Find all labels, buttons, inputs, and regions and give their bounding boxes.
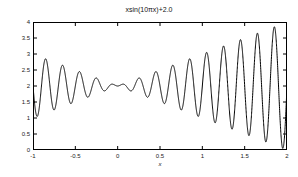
y-tick-label: 1 — [6, 115, 30, 122]
x-tick-label: 2 — [285, 153, 288, 160]
plot-area: 00.511.522.533.54 -1-0.500.511.52 — [33, 22, 287, 150]
y-tick-label: 0.5 — [6, 131, 30, 138]
y-tick-label: 2.5 — [6, 67, 30, 74]
figure-canvas: xsin(10πx)+2.0 00.511.522.533.54 -1-0.50… — [0, 0, 298, 177]
x-tick-label: 0.5 — [156, 153, 164, 160]
axes-and-curve — [33, 22, 287, 150]
y-tick-label: 3 — [6, 51, 30, 58]
x-tick-label: -1 — [30, 153, 35, 160]
x-tick-label: 1 — [201, 153, 204, 160]
x-tick-label: 1.5 — [240, 153, 248, 160]
y-tick-label: 3.5 — [6, 35, 30, 42]
y-tick-label: 4 — [6, 19, 30, 26]
y-tick-label: 1.5 — [6, 99, 30, 106]
y-tick-label: 0 — [6, 147, 30, 154]
data-series-group — [33, 27, 287, 149]
x-tick-label: -0.5 — [70, 153, 80, 160]
data-curve — [33, 27, 287, 149]
y-tick-label: 2 — [6, 83, 30, 90]
chart-title: xsin(10πx)+2.0 — [0, 5, 298, 14]
x-tick-label: 0 — [116, 153, 119, 160]
x-axis-label: x — [33, 160, 287, 168]
